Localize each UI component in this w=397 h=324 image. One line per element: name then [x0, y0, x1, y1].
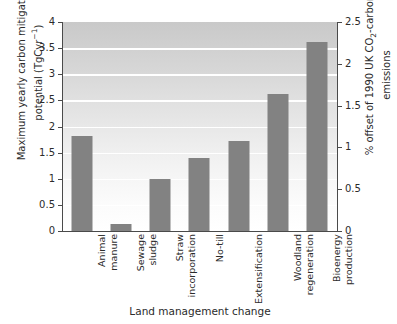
- y-axis-right-tick: [338, 231, 342, 232]
- y-axis-right-tick: [338, 106, 342, 107]
- bar-chart-figure: 00.511.522.533.54 00.511.522.5 Maximum y…: [0, 0, 397, 324]
- plot-area: [62, 22, 337, 231]
- y-axis-left-tick-label: 1: [49, 174, 55, 184]
- y-axis-left-title: Maximum yearly carbon mitigation potenti…: [15, 0, 44, 173]
- y-axis-left-title-line2-prefix: potential (TgCyr: [33, 40, 44, 121]
- y-axis-right-tick-label: 2: [345, 59, 351, 69]
- y-axis-left-tick: [58, 231, 62, 232]
- y-axis-left-tick: [58, 48, 62, 49]
- y-axis-left-title-line2-suffix: ): [33, 25, 44, 29]
- y-axis-left-title-exponent: −1: [30, 29, 39, 40]
- y-axis-right-tick: [338, 147, 342, 148]
- x-axis-category-label: No-till: [214, 234, 242, 304]
- bar-slot: [298, 22, 337, 231]
- y-axis-right-tick: [338, 64, 342, 65]
- x-axis-line: [62, 231, 338, 232]
- y-axis-right-title-mid: -carbon: [364, 0, 375, 33]
- y-axis-left-tick-label: 0.5: [39, 200, 55, 210]
- bar[interactable]: [268, 94, 289, 231]
- x-axis-category-label: Woodland regeneration: [292, 234, 320, 304]
- bar[interactable]: [110, 224, 131, 231]
- y-axis-left-tick-label: 3: [49, 69, 55, 79]
- y-axis-right-title-prefix: % offset of 1990 UK CO: [364, 38, 375, 156]
- bar-slot: [141, 22, 180, 231]
- bar[interactable]: [71, 136, 92, 231]
- y-axis-right-tick-label: 1: [345, 142, 351, 152]
- x-axis-category-label: Straw incorporation: [174, 234, 202, 304]
- y-axis-right-tick-label: 1.5: [345, 101, 361, 111]
- bars-layer: [62, 22, 337, 231]
- bar-slot: [101, 22, 140, 231]
- x-axis-category-label: Sewage sludge: [135, 234, 163, 304]
- y-axis-left-tick: [58, 205, 62, 206]
- x-axis-category-label: Extensification: [253, 234, 281, 304]
- bar[interactable]: [228, 141, 249, 231]
- y-axis-right-title-line2: emissions: [381, 50, 392, 100]
- bar-slot: [180, 22, 219, 231]
- x-axis-category-label: Bioenergy production: [331, 234, 359, 304]
- y-axis-right-line: [337, 22, 338, 232]
- y-axis-left-tick: [58, 127, 62, 128]
- y-axis-right-title-subscript: 2: [369, 33, 378, 38]
- bar[interactable]: [189, 158, 210, 231]
- y-axis-left-tick-label: 2: [49, 122, 55, 132]
- y-axis-left-tick: [58, 153, 62, 154]
- y-axis-left-tick: [58, 179, 62, 180]
- y-axis-left-tick: [58, 100, 62, 101]
- y-axis-left-tick-label: 0: [49, 226, 55, 236]
- y-axis-right-tick: [338, 22, 342, 23]
- bar-slot: [219, 22, 258, 231]
- x-axis-category-labels: Animal manureSewage sludgeStraw incorpor…: [62, 234, 338, 304]
- y-axis-right-title: % offset of 1990 UK CO2-carbon emissions: [363, 0, 393, 175]
- y-axis-left-tick: [58, 22, 62, 23]
- x-axis-category-label: Animal manure: [96, 234, 124, 304]
- bar[interactable]: [307, 42, 328, 231]
- bar-slot: [258, 22, 297, 231]
- y-axis-left-title-line1: Maximum yearly carbon mitigation: [16, 0, 27, 160]
- y-axis-right-tick-label: 2.5: [345, 17, 361, 27]
- y-axis-right-tick: [338, 189, 342, 190]
- bar-slot: [62, 22, 101, 231]
- y-axis-left-line: [62, 22, 63, 232]
- y-axis-left-tick: [58, 74, 62, 75]
- y-axis-right-tick-label: 0.5: [345, 184, 361, 194]
- bar[interactable]: [150, 179, 171, 231]
- x-axis-title: Land management change: [62, 305, 338, 317]
- y-axis-left-tick-label: 4: [49, 17, 55, 27]
